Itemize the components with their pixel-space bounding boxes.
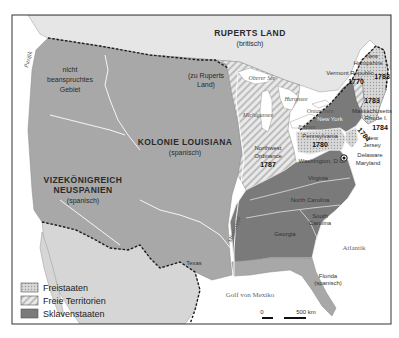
label-pennsylvania-year: 1780 (312, 141, 328, 148)
label-delaware: Delaware (357, 152, 383, 158)
label-washington: Washington, D.C. (299, 158, 346, 164)
label-lake-superior: Oberer See (249, 75, 276, 81)
label-vermont: Vermont Republic (326, 70, 373, 76)
label-to-ruperts-2: Land) (197, 81, 215, 89)
label-ruperts-land-sub: (britisch) (237, 40, 264, 48)
label-unclaimed-1: nicht (63, 66, 78, 73)
label-maine-year: 1783 (374, 73, 390, 80)
legend-label-free-territories: Freie Territorien (43, 296, 106, 306)
historical-map: RUPERTS LAND (britisch) nicht beanspruch… (0, 0, 399, 338)
label-unclaimed-2: beanspruchtes (47, 76, 93, 84)
label-unclaimed-3: Gebiet (60, 86, 81, 93)
label-new-jersey-1: New (366, 135, 379, 141)
label-northwest-2: Ordinance (254, 153, 282, 159)
label-new-york: New York (317, 116, 343, 122)
legend-label-free-states: Freistaaten (43, 283, 88, 293)
label-atlantic: Atlantik (343, 244, 366, 252)
legend-swatch-free-territories (21, 296, 38, 305)
label-new-spain-1: VIZEKÖNIGREICH (44, 175, 123, 185)
label-new-jersey-2: Jersey (363, 142, 381, 148)
label-new-hampshire-2: Hampshire (353, 60, 383, 66)
label-south-carolina-2: Carolina (309, 220, 332, 226)
label-mass-year: 1783 (364, 97, 380, 104)
legend-swatch-free-states (21, 283, 38, 292)
label-texas: Texas (186, 260, 202, 266)
label-louisiana-sub: (spanisch) (169, 149, 201, 157)
label-new-spain-2: NEUSPANIEN (53, 185, 112, 195)
label-georgia: Georgia (274, 231, 296, 237)
label-florida-2: (spanisch) (314, 280, 342, 286)
label-virginia: Virginia (308, 175, 329, 181)
legend-swatch-slave-states (21, 309, 38, 318)
label-maryland: Maryland (356, 160, 381, 166)
label-rhode-island: Rhode I. (365, 115, 388, 121)
label-lake-ontario: Ontariosee (307, 108, 334, 114)
label-lake-erie: Eriesee (297, 124, 316, 130)
scale-segment (273, 317, 284, 319)
scale-max: 500 km (296, 309, 316, 315)
legend-label-slave-states: Sklavenstaaten (43, 309, 105, 319)
label-lake-michigan: Michigansee (242, 112, 274, 118)
label-northwest-year: 1787 (260, 161, 276, 168)
label-new-hampshire-1: New (366, 53, 379, 59)
label-gulf: Golf von Mexiko (226, 291, 275, 299)
label-south-carolina-1: South (312, 213, 328, 219)
label-ruperts-land: RUPERTS LAND (214, 28, 285, 38)
label-pennsylvania: Pennsylvania (302, 133, 338, 139)
label-north-carolina: North Carolina (291, 197, 330, 203)
label-louisiana: KOLONIE LOUISIANA (138, 137, 233, 147)
label-lake-huron: Huronsee (283, 96, 307, 102)
label-florida-1: Florida (319, 273, 338, 279)
label-new-spain-sub: (spanisch) (67, 197, 99, 205)
label-northwest-1: Northwest (254, 145, 281, 151)
label-to-ruperts-1: (zu Ruperts (188, 72, 225, 80)
label-vermont-year: 1770 (348, 78, 364, 85)
capital-marker-dot (343, 157, 346, 160)
label-massachusetts: Massachusetts (352, 108, 392, 114)
label-ri-year: 1784 (372, 124, 388, 131)
